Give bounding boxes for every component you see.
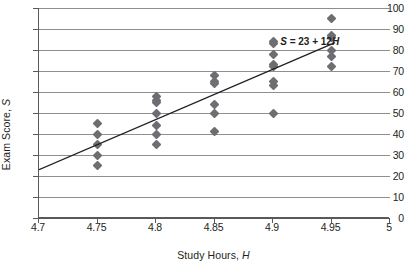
y-axis-title-text: Exam Score, [0,106,12,170]
x-axis-title-text: Study Hours, [177,249,242,261]
x-axis-title: Study Hours, H [38,249,389,261]
y-axis-title: Exam Score, S [0,0,13,269]
equation-body: = 23 + 12 [287,36,332,47]
gridline [39,197,390,198]
x-tick-label: 4.95 [311,222,351,233]
x-tick-label: 4.7 [18,222,58,233]
equation-symbol-h: H [332,36,339,47]
gridline [39,176,390,177]
x-tick-label: 4.8 [135,222,175,233]
gridline [39,218,390,219]
gridline [39,8,390,9]
equation-symbol-s: S [280,36,287,47]
gridline [39,29,390,30]
x-tick-label: 4.85 [194,222,234,233]
x-tick-label: 4.9 [252,222,292,233]
x-tick-label: 5 [369,222,409,233]
gridline [39,92,390,93]
y-axis-title-symbol: S [0,99,12,106]
x-axis-title-symbol: H [242,249,250,261]
x-tick-label: 4.75 [77,222,117,233]
gridline [39,50,390,51]
trendline-equation-label: S = 23 + 12H [280,36,339,47]
